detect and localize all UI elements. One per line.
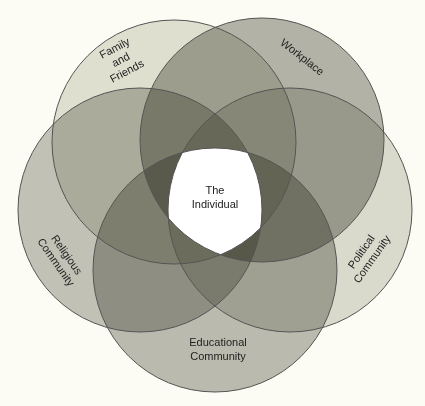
svg-text:Individual: Individual: [192, 198, 238, 210]
svg-text:Community: Community: [190, 350, 246, 362]
venn-diagram: Family and Friends Workplace Religious C…: [0, 0, 425, 406]
svg-text:The: The: [206, 184, 225, 196]
svg-text:Educational: Educational: [189, 336, 247, 348]
